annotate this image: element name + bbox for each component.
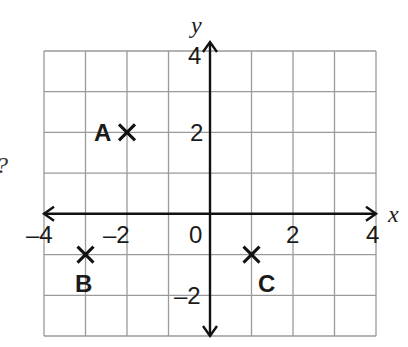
x-tick-label: 2 [286,221,299,248]
x-axis-label: x [387,201,399,227]
point-label: C [258,270,275,297]
point-label: A [94,119,111,146]
point-label: B [75,270,92,297]
x-tick-label: –2 [103,221,130,248]
x-tick-label: –4 [26,221,53,248]
y-tick-label: –2 [174,282,201,309]
x-tick-label: 0 [189,221,202,248]
y-tick-label: 4 [188,42,201,69]
y-tick-label: 2 [190,119,203,146]
x-tick-label: 4 [366,221,379,248]
coordinate-grid-figure: x y –4 –2 0 2 4 4 2 –2 A B C ? [0,0,408,347]
cropped-question-text: ? [0,152,8,178]
y-axis-label: y [189,12,202,38]
y-axis [203,42,217,336]
